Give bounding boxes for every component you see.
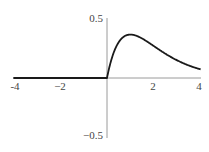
y-tick-label: −0.5 xyxy=(83,129,103,141)
x-tick-label: −2 xyxy=(54,80,66,92)
y-tick-labels: 0.5 −0.5 xyxy=(83,12,103,141)
x-tick-label: 2 xyxy=(150,80,156,92)
line-chart: -4 −2 2 4 0.5 −0.5 xyxy=(0,0,209,152)
x-tick-label: 4 xyxy=(196,80,202,92)
x-tick-label: -4 xyxy=(10,80,20,92)
y-tick-label: 0.5 xyxy=(89,12,103,24)
x-tick-labels: -4 −2 2 4 xyxy=(10,80,202,92)
